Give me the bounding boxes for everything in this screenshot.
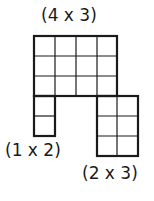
grid-1x2: [34, 96, 55, 136]
grid-2x3: [97, 96, 138, 156]
label-2x3: (2 x 3): [82, 163, 138, 183]
grid-4x3: [34, 36, 117, 96]
label-1x2: (1 x 2): [5, 140, 61, 160]
